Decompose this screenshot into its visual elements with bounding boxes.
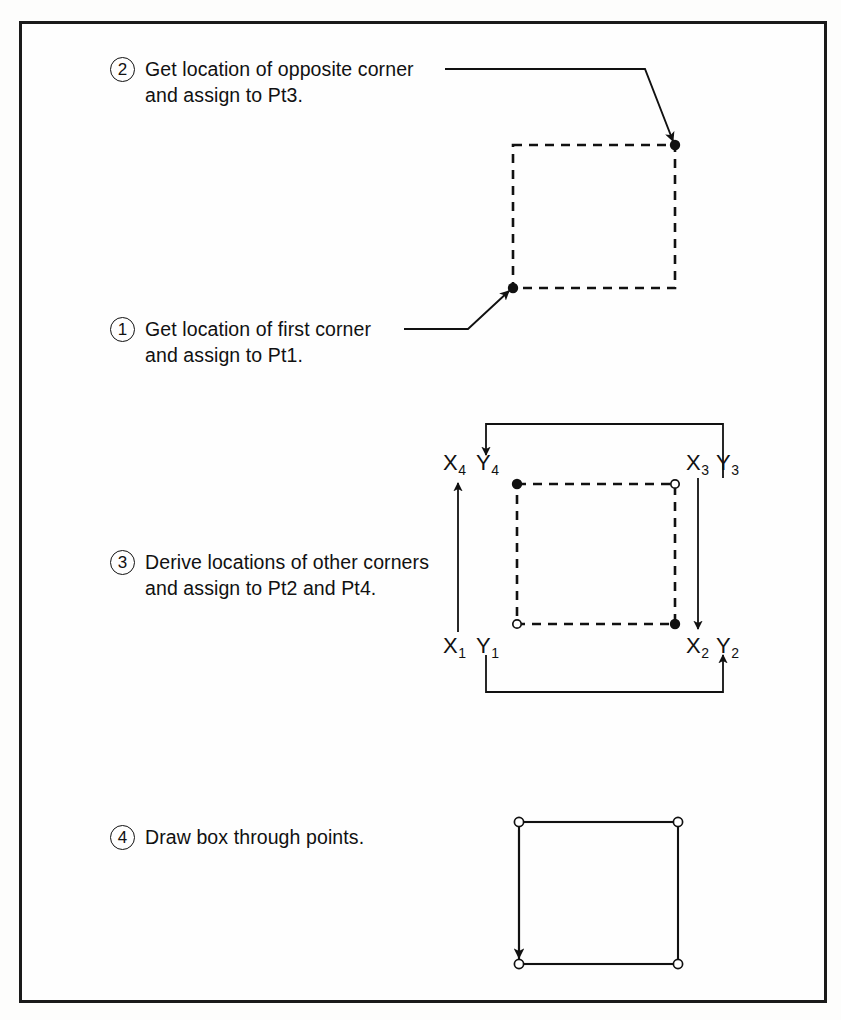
coord-axis-x3: X — [686, 450, 701, 475]
coord-axis-y2: Y — [716, 633, 731, 658]
coord-label-x3: X3 — [686, 450, 708, 476]
step-text-4: Draw box through points. — [145, 824, 364, 850]
coord-index-y2: 2 — [731, 645, 739, 661]
coord-index-x3: 3 — [701, 462, 709, 478]
step-number-1: 1 — [110, 317, 135, 342]
coord-axis-x4: X — [443, 450, 458, 475]
coord-index-y4: 4 — [491, 462, 499, 478]
step-number-3: 3 — [110, 550, 135, 575]
diagram-page: 2 Get location of opposite corner and as… — [0, 0, 841, 1020]
coord-index-x2: 2 — [701, 645, 709, 661]
coord-axis-y1: Y — [476, 633, 491, 658]
step-text-2: Get location of opposite corner and assi… — [145, 56, 414, 108]
coord-label-x1: X1 — [443, 633, 465, 659]
coord-axis-y4: Y — [476, 450, 491, 475]
step-number-4: 4 — [110, 825, 135, 850]
step-text-3: Derive locations of other corners and as… — [145, 549, 429, 601]
coord-label-y3: Y3 — [716, 450, 738, 476]
step-text-1: Get location of first corner and assign … — [145, 316, 371, 368]
coord-index-x4: 4 — [458, 462, 466, 478]
coord-label-y2: Y2 — [716, 633, 738, 659]
page-frame-border — [19, 21, 827, 1003]
coord-axis-x2: X — [686, 633, 701, 658]
coord-index-y3: 3 — [731, 462, 739, 478]
coord-label-x2: X2 — [686, 633, 708, 659]
coord-index-x1: 1 — [458, 645, 466, 661]
coord-label-y4: Y4 — [476, 450, 498, 476]
coord-label-x4: X4 — [443, 450, 465, 476]
coord-axis-x1: X — [443, 633, 458, 658]
coord-index-y1: 1 — [491, 645, 499, 661]
coord-axis-y3: Y — [716, 450, 731, 475]
coord-label-y1: Y1 — [476, 633, 498, 659]
step-number-2: 2 — [110, 57, 135, 82]
